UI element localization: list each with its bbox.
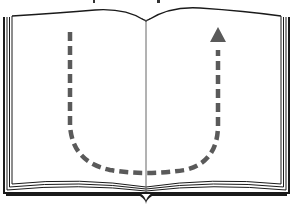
arrow-head-icon xyxy=(210,27,226,42)
page-tops xyxy=(12,8,281,20)
open-book-illustration xyxy=(0,0,293,209)
book-spine xyxy=(141,18,151,192)
dashed-u-arrow xyxy=(70,27,226,173)
cropped-caption-fragments xyxy=(93,0,160,3)
book-cover xyxy=(6,193,287,204)
left-page-stack xyxy=(4,16,146,193)
diagram-canvas xyxy=(0,0,293,209)
